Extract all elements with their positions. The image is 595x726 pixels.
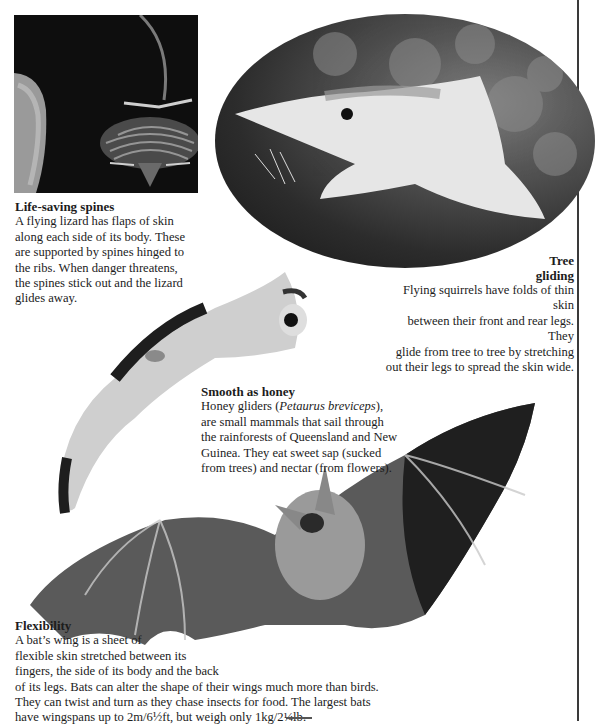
caption-body: Honey gliders (Petaurus breviceps), are … bbox=[201, 399, 397, 475]
caption-title: Flexibility bbox=[15, 618, 575, 633]
caption-text: Honey gliders ( bbox=[201, 399, 279, 413]
caption-bat-flexibility: Flexibility A bat’s wing is a sheet of f… bbox=[15, 618, 575, 726]
flying-squirrel-photo bbox=[215, 14, 595, 268]
caption-body-line: They can twist and turn as they chase in… bbox=[15, 695, 575, 710]
caption-body-line: A bat’s wing is a sheet of bbox=[15, 633, 575, 648]
caption-title: Smooth as honey bbox=[201, 384, 401, 399]
caption-title-line-1: Tree bbox=[380, 253, 574, 268]
page-footer-rule bbox=[286, 717, 312, 719]
species-name: Petaurus breviceps bbox=[279, 399, 375, 413]
caption-flying-lizard: Life-saving spines A flying lizard has f… bbox=[15, 199, 187, 307]
caption-title-line-2: gliding bbox=[380, 268, 574, 283]
caption-body-line: glide from tree to tree by stretching bbox=[380, 345, 574, 360]
caption-title: Life-saving spines bbox=[15, 199, 187, 214]
caption-honey-glider: Smooth as honey Honey gliders (Petaurus … bbox=[201, 384, 401, 476]
caption-body-line: Flying squirrels have folds of thin skin bbox=[380, 283, 574, 314]
caption-body-line: between their front and rear legs. They bbox=[380, 314, 574, 345]
caption-body: A flying lizard has flaps of skin along … bbox=[15, 214, 185, 305]
caption-body-line: out their legs to spread the skin wide. bbox=[380, 360, 574, 375]
caption-flying-squirrel: Tree gliding Flying squirrels have folds… bbox=[380, 253, 574, 375]
caption-body-line: fingers, the side of its body and the ba… bbox=[15, 664, 575, 679]
caption-body-line: flexible skin stretched between its bbox=[15, 649, 575, 664]
caption-body-line: of its legs. Bats can alter the shape of… bbox=[15, 680, 575, 695]
flying-lizard-photo bbox=[14, 15, 198, 193]
